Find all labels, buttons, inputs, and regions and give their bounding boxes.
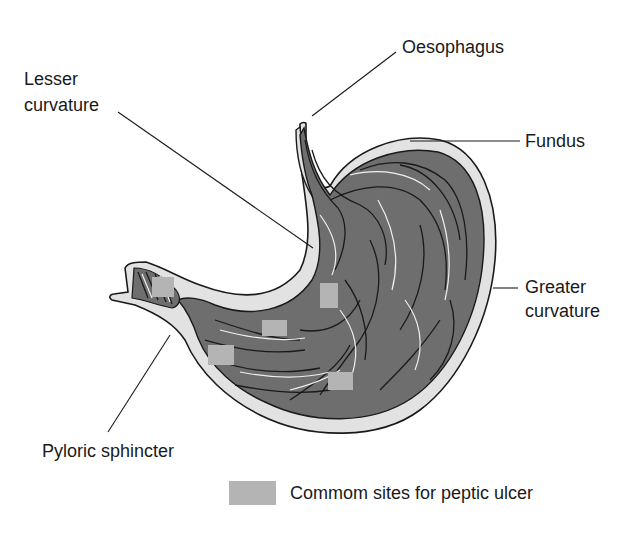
label-lesser-curvature-line2: curvature xyxy=(24,94,99,116)
ulcer-site xyxy=(262,320,287,336)
label-greater-curvature-line2: curvature xyxy=(525,300,600,322)
label-greater-curvature-line1: Greater xyxy=(525,276,586,298)
label-lesser-curvature-line1: Lesser xyxy=(24,68,78,90)
ulcer-site xyxy=(320,283,338,308)
label-pyloric-sphincter: Pyloric sphincter xyxy=(42,440,174,462)
legend-label: Commom sites for peptic ulcer xyxy=(290,481,533,505)
leader-lesser-curvature xyxy=(118,112,313,248)
label-fundus: Fundus xyxy=(525,130,585,152)
leader-pyloric-sphincter xyxy=(108,335,170,432)
ulcer-site xyxy=(152,277,174,297)
label-oesophagus: Oesophagus xyxy=(402,36,504,58)
legend-swatch xyxy=(229,481,276,505)
leader-oesophagus xyxy=(312,52,396,116)
ulcer-site xyxy=(328,372,353,390)
ulcer-site xyxy=(208,345,234,365)
